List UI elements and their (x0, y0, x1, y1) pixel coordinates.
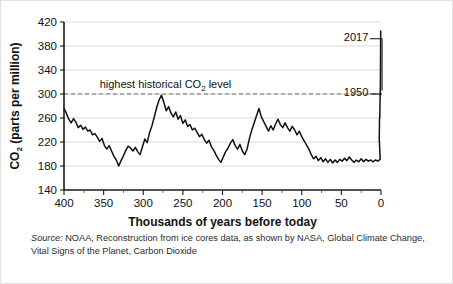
annotation-1950-label: 1950 (344, 86, 368, 98)
y-tick-label-140: 140 (38, 184, 57, 196)
x-tick-label-0: 0 (378, 197, 384, 209)
y-tick-label-420: 420 (38, 16, 57, 28)
co2-ice-core-chart: 140180220260300340380420 400350300250200… (1, 1, 453, 233)
x-tick-label-350: 350 (94, 197, 113, 209)
y-tick-label-380: 380 (38, 40, 57, 52)
y-axis-title: CO2 (parts per million) (8, 42, 24, 169)
source-text: NOAA, Reconstruction from ice cores data… (31, 233, 425, 256)
axes-group (64, 22, 381, 190)
x-tick-label-300: 300 (134, 197, 153, 209)
y-tick-label-340: 340 (38, 64, 57, 76)
y-tick-label-220: 220 (38, 136, 57, 148)
x-tick-label-100: 100 (292, 197, 311, 209)
annotation-2017-label: 2017 (344, 31, 368, 43)
source-label: Source: (31, 233, 63, 243)
x-axis-title: Thousands of years before today (128, 215, 317, 229)
figure-card: 140180220260300340380420 400350300250200… (0, 0, 453, 284)
source-note: Source: NOAA, Reconstruction from ice co… (31, 232, 431, 259)
x-tick-label-250: 250 (173, 197, 192, 209)
co2-data-line (64, 31, 381, 166)
x-tick-label-200: 200 (213, 197, 232, 209)
x-tick-label-150: 150 (253, 197, 272, 209)
x-tick-group: 400350300250200150100500 (54, 190, 384, 209)
x-tick-label-50: 50 (335, 197, 348, 209)
y-tick-label-180: 180 (38, 160, 57, 172)
threshold-label: highest historical CO2 level (100, 78, 232, 93)
y-axis-title-main: CO (8, 152, 22, 170)
y-tick-label-260: 260 (38, 112, 57, 124)
annotations-group: highest historical CO2 level 2017 1950 (100, 31, 382, 98)
y-axis-title-rest: (parts per million) (8, 42, 22, 147)
chart-svg: 140180220260300340380420 400350300250200… (1, 1, 453, 233)
threshold-label-main: highest historical CO (100, 78, 202, 90)
co2-series-group (64, 31, 381, 166)
y-tick-group: 140180220260300340380420 (38, 16, 64, 196)
x-tick-label-400: 400 (54, 197, 73, 209)
threshold-label-rest: level (206, 78, 232, 90)
y-tick-label-300: 300 (38, 88, 57, 100)
